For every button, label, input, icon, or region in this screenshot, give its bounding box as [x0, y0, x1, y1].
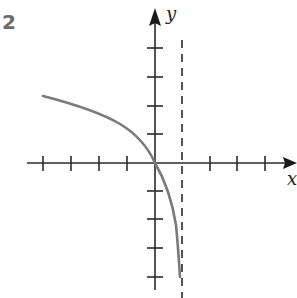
y-axis-label: y — [165, 3, 177, 24]
x-axis — [27, 156, 297, 171]
function-curve — [43, 96, 180, 277]
y-axis — [147, 8, 163, 290]
graph: y x — [0, 0, 297, 298]
x-axis-label: x — [287, 168, 297, 189]
